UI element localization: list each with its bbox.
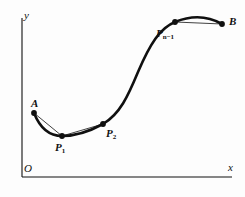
point-label-p2-subscript: 2 xyxy=(113,133,117,141)
point-label-a: A xyxy=(31,98,38,109)
point-label-p2: P2 xyxy=(106,128,116,141)
spline-curve xyxy=(34,17,222,136)
point-a xyxy=(31,110,37,116)
point-label-b: B xyxy=(229,16,236,27)
point-label-pn-1-subscript: n−1 xyxy=(163,33,174,41)
chord-pn1-b xyxy=(175,22,222,24)
point-label-pn-1: Pn−1 xyxy=(156,28,174,41)
point-label-p1-base: P xyxy=(55,141,62,153)
y-axis-label: y xyxy=(24,10,29,21)
point-label-pn-1-base: P xyxy=(156,27,163,39)
point-label-p1: P1 xyxy=(55,142,65,155)
point-b xyxy=(219,21,225,27)
x-axis-label: x xyxy=(228,162,233,173)
point-p1 xyxy=(59,133,65,139)
point-label-p1-subscript: 1 xyxy=(62,147,66,155)
point-pn-1 xyxy=(172,19,178,25)
point-label-p2-base: P xyxy=(106,127,113,139)
origin-label: O xyxy=(24,163,32,174)
